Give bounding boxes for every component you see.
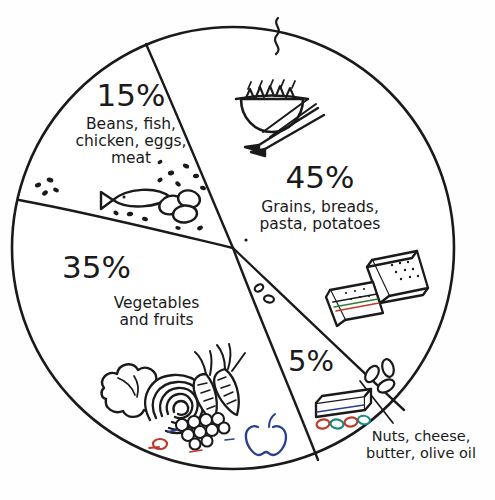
grains-crumb-icon <box>244 238 247 241</box>
food-proportions-pie-chart: 45% Grains, breads, pasta, potatoes 15% … <box>0 0 495 500</box>
pie-chart-drawing <box>0 0 495 500</box>
